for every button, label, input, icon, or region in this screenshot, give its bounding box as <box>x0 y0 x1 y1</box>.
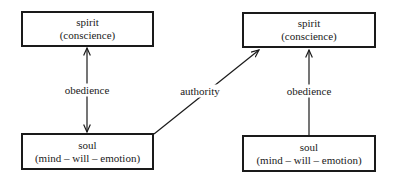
left-obedience-label: obedience <box>63 84 112 97</box>
soul-right-box: soul (mind – will – emotion) <box>242 135 376 172</box>
soul-right-subtitle: (mind – will – emotion) <box>256 154 361 167</box>
spirit-left-box: spirit (conscience) <box>21 11 154 47</box>
authority-label: authority <box>178 85 222 98</box>
soul-left-box: soul (mind – will – emotion) <box>21 133 154 170</box>
soul-left-title: soul <box>78 139 96 152</box>
spirit-left-title: spirit <box>76 16 99 29</box>
right-obedience-label: obedience <box>285 85 334 98</box>
spirit-left-subtitle: (conscience) <box>60 29 116 42</box>
spirit-right-title: spirit <box>298 17 321 30</box>
soul-left-subtitle: (mind – will – emotion) <box>35 152 140 165</box>
spirit-right-box: spirit (conscience) <box>242 12 376 48</box>
spirit-right-subtitle: (conscience) <box>281 30 337 43</box>
soul-right-title: soul <box>300 141 318 154</box>
